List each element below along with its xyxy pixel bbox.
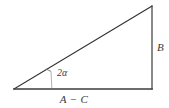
triangle-diagram: 2α A − C B bbox=[0, 0, 169, 108]
vertical-leg-label: B bbox=[157, 41, 164, 53]
base-label: A − C bbox=[59, 93, 89, 105]
angle-label: 2α bbox=[57, 67, 68, 78]
figure-container: 2α A − C B bbox=[0, 0, 169, 108]
diagram-background bbox=[0, 0, 169, 108]
